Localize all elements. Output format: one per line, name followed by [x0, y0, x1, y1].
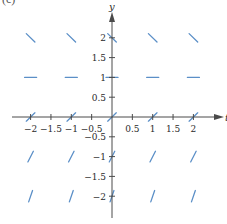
y-tick-label: 0.5: [92, 93, 107, 103]
y-tick-label: 1: [100, 73, 106, 83]
x-tick-label: −2: [24, 124, 37, 134]
slope-segment: [150, 151, 155, 162]
t-axis-arrow-icon: [214, 114, 224, 120]
t-axis-label: t: [225, 112, 227, 123]
slope-segment: [189, 34, 198, 42]
axes: ty: [12, 1, 227, 218]
x-tick-label: 0.5: [125, 124, 140, 134]
slope-segment: [29, 191, 33, 202]
slope-segment: [151, 191, 155, 202]
x-tick-label: −1: [65, 124, 78, 134]
x-tick-label: 2: [191, 124, 197, 134]
slope-segment: [67, 34, 76, 42]
slope-segment: [69, 191, 73, 202]
y-axis-arrow-icon: [109, 12, 115, 22]
y-axis-label: y: [108, 1, 115, 12]
y-tick-label: −2: [93, 192, 106, 202]
x-tick-label: −1.5: [40, 124, 62, 134]
y-tick-label: 2: [100, 33, 106, 43]
y-tick-label: −1.5: [84, 172, 106, 182]
y-tick-label: 1.5: [92, 53, 107, 63]
slope-segment: [191, 191, 195, 202]
slope-segment: [191, 151, 196, 162]
slope-segment: [26, 34, 35, 42]
slope-segment: [28, 151, 33, 162]
x-tick-label: 1.5: [166, 124, 181, 134]
slope-field-diagram: ty −2−1.5−1−0.50.511.5221.510.5−0.5−1−1.…: [0, 0, 227, 224]
y-tick-label: −1: [93, 152, 106, 162]
x-tick-label: 1: [150, 124, 156, 134]
y-tick-label: −0.5: [84, 132, 106, 142]
slope-segment: [69, 151, 74, 162]
slope-segment: [148, 34, 157, 42]
